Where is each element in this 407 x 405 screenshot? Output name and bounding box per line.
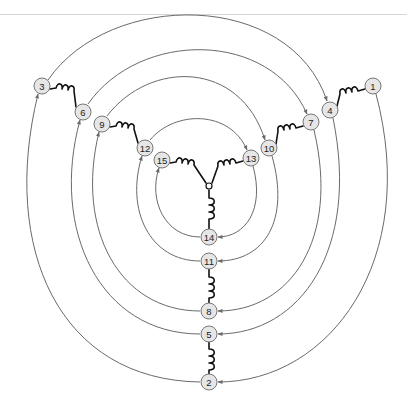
node-7: 7	[303, 114, 319, 130]
svg-text:1: 1	[370, 81, 375, 92]
svg-text:6: 6	[80, 107, 85, 118]
arc-5-to-6	[71, 120, 200, 334]
arc-11-to-12	[137, 156, 200, 261]
coil-center-14	[209, 190, 214, 229]
svg-text:10: 10	[264, 143, 275, 154]
svg-text:4: 4	[327, 105, 332, 116]
node-15: 15	[154, 152, 170, 168]
node-12: 12	[137, 140, 153, 156]
node-5: 5	[201, 326, 217, 342]
node-1: 1	[365, 78, 381, 94]
node-6: 6	[75, 104, 91, 120]
arc-1-to-2	[218, 94, 387, 382]
top-arcs	[48, 15, 327, 150]
node-11: 11	[201, 253, 217, 269]
coil-5-2	[209, 342, 214, 374]
svg-text:2: 2	[206, 377, 211, 388]
arc-9-to-10	[107, 77, 265, 140]
coil-15-center	[170, 158, 206, 183]
star-junction	[206, 183, 212, 189]
arc-13-to-14	[218, 166, 257, 237]
svg-text:7: 7	[308, 117, 313, 128]
node-8: 8	[201, 303, 217, 319]
node-13: 13	[243, 150, 259, 166]
svg-text:5: 5	[206, 329, 211, 340]
node-2: 2	[201, 374, 217, 390]
nodes: 1 2 3 4 5 6 7 8 9 10 11 12 13 14 15	[34, 78, 381, 390]
left-arcs	[27, 94, 200, 382]
node-14: 14	[201, 229, 217, 245]
svg-text:3: 3	[39, 81, 44, 92]
coil-7-10	[276, 124, 303, 144]
coil-13-center	[212, 159, 243, 183]
svg-text:9: 9	[99, 119, 104, 130]
coil-1-4	[337, 87, 365, 106]
node-9: 9	[94, 116, 110, 132]
coil-3-6	[50, 84, 76, 107]
arc-7-to-8	[218, 130, 321, 311]
arc-10-to-11	[218, 156, 278, 261]
arc-4-to-5	[218, 118, 340, 334]
arc-14-to-15	[156, 168, 200, 237]
node-3: 3	[34, 78, 50, 94]
coil-9-12	[110, 122, 138, 143]
coil-11-8	[209, 269, 214, 303]
svg-text:15: 15	[157, 155, 168, 166]
svg-text:13: 13	[246, 153, 257, 164]
arc-12-to-13	[150, 119, 247, 150]
arc-3-to-4	[48, 15, 327, 101]
winding-diagram: 1 2 3 4 5 6 7 8 9 10 11 12 13 14 15	[0, 0, 407, 405]
svg-text:11: 11	[204, 256, 214, 267]
node-10: 10	[261, 140, 277, 156]
arc-2-to-3	[27, 94, 200, 382]
arc-6-to-7	[88, 50, 307, 114]
svg-text:12: 12	[140, 143, 151, 154]
node-4: 4	[322, 102, 338, 118]
right-arcs	[218, 94, 387, 382]
svg-text:14: 14	[204, 232, 215, 243]
svg-text:8: 8	[206, 306, 211, 317]
